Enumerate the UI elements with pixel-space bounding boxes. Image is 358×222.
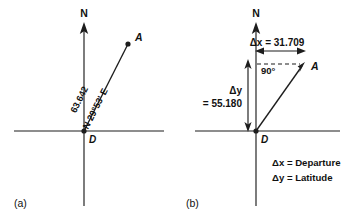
figure-container: N D A 63.642 N 29°53' E (a) — [0, 0, 358, 222]
panel-a-caption: (a) — [14, 197, 27, 209]
panel-b-delta-x-right-arrowhead — [297, 48, 306, 55]
panel-a-origin-label: D — [89, 134, 96, 145]
panel-b-legend-item-latitude: Δy = Latitude — [272, 172, 332, 183]
panel-b-point-a-label: A — [310, 60, 319, 72]
panel-b-origin-label: D — [261, 134, 268, 145]
panel-a: N D A 63.642 N 29°53' E (a) — [14, 7, 164, 209]
panel-b: N D A Δx = 31.709 90° Δy — [186, 7, 340, 209]
panel-a-point-a — [125, 41, 130, 46]
panel-b-delta-x-label: Δx = 31.709 — [250, 37, 305, 48]
panel-a-point-a-label: A — [134, 31, 143, 43]
panel-a-north-label: N — [80, 7, 88, 19]
panel-b-origin-point — [253, 128, 258, 133]
panel-a-distance-label: 63.642 — [69, 85, 91, 115]
panel-b-right-angle-label: 90° — [261, 65, 276, 76]
panel-b-delta-y-label-line1: Δy — [229, 85, 242, 96]
panel-b-delta-y-label-line2: = 55.180 — [203, 98, 243, 109]
panel-b-legend-item-departure: Δx = Departure — [272, 157, 340, 168]
panel-b-north-label: N — [252, 7, 260, 19]
panel-a-distance-label-group: 63.642 — [69, 85, 91, 115]
panel-b-caption: (b) — [186, 197, 199, 209]
diagram-canvas: N D A 63.642 N 29°53' E (a) — [0, 0, 358, 222]
